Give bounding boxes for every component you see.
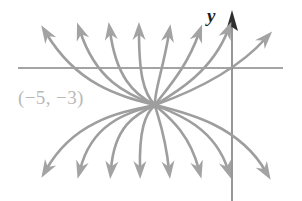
arrowhead-lower-branch-7 bbox=[219, 159, 237, 180]
arrowhead-lower-branch-8 bbox=[256, 161, 276, 183]
critical-point-label: (−5, −3) bbox=[18, 87, 84, 110]
arrowhead-lower-branch-1 bbox=[36, 159, 56, 181]
arrowhead-upper-branch-6 bbox=[190, 22, 208, 43]
y-axis-label: y bbox=[207, 6, 215, 25]
arrowhead-lower-branch-2 bbox=[71, 160, 88, 181]
arrowhead-lower-branch-6 bbox=[190, 160, 207, 181]
trajectory-lower-branch-4 bbox=[140, 105, 155, 170]
equilibrium-node-dot bbox=[152, 102, 159, 109]
arrowhead-upper-branch-1 bbox=[36, 22, 57, 44]
phase-portrait-figure: y (−5, −3) bbox=[0, 0, 302, 201]
arrowhead-upper-branch-2 bbox=[71, 20, 89, 41]
